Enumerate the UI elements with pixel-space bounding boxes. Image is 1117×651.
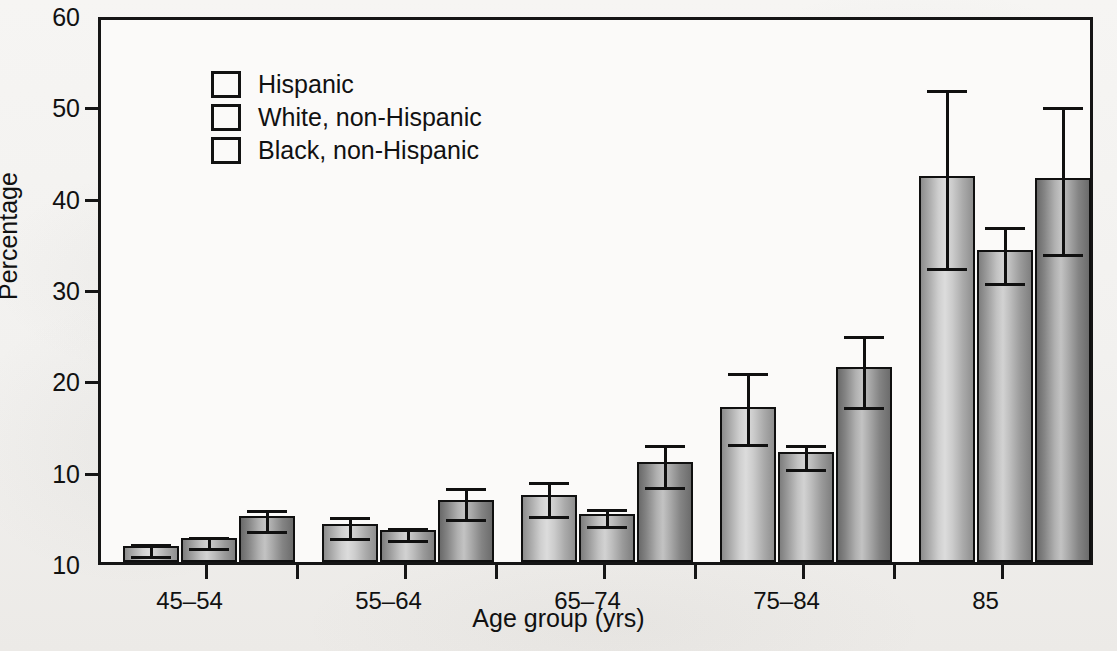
- y-tick-label: 50: [12, 94, 80, 123]
- legend-item: Black, non-Hispanic: [211, 134, 482, 166]
- error-bar-cap-upper: [529, 482, 569, 485]
- error-bar-stem: [606, 510, 609, 527]
- error-bar-cap-lower: [446, 519, 486, 522]
- legend: HispanicWhite, non-HispanicBlack, non-Hi…: [211, 68, 482, 167]
- error-bar-stem: [805, 447, 808, 471]
- y-tick-label: 20: [12, 368, 80, 397]
- error-bar-stem: [863, 338, 866, 408]
- x-tick-mark-center: [802, 565, 805, 579]
- x-tick-mark-center: [603, 565, 606, 579]
- x-tick-mark-center: [404, 565, 407, 579]
- error-bar-stem: [747, 374, 750, 445]
- plot-area: HispanicWhite, non-HispanicBlack, non-Hi…: [98, 17, 1093, 565]
- error-bar-cap-lower: [985, 283, 1025, 286]
- error-bar-stem: [1004, 228, 1007, 285]
- y-tick-label: 30: [12, 277, 80, 306]
- x-tick-mark: [495, 565, 498, 579]
- y-tick-mark: [85, 381, 98, 384]
- error-bar-cap-upper: [985, 227, 1025, 230]
- error-bar-cap-upper: [446, 488, 486, 491]
- error-bar-cap-lower: [587, 526, 627, 529]
- error-bar-cap-upper: [844, 336, 884, 339]
- y-tick-mark: [85, 107, 98, 110]
- error-bar-stem: [548, 484, 551, 518]
- x-axis-label: Age group (yrs): [0, 604, 1117, 633]
- chart-figure: Percentage 10102030405060 HispanicWhite,…: [0, 0, 1117, 651]
- y-tick-mark: [85, 290, 98, 293]
- legend-swatch: [211, 104, 241, 131]
- legend-swatch: [211, 137, 241, 164]
- legend-swatch: [211, 71, 241, 98]
- x-tick-mark: [694, 565, 697, 579]
- legend-label: Hispanic: [258, 70, 354, 99]
- x-tick-mark: [296, 565, 299, 579]
- error-bar-cap-upper: [330, 517, 370, 520]
- legend-label: White, non-Hispanic: [258, 103, 482, 132]
- legend-item: White, non-Hispanic: [211, 101, 482, 133]
- error-bar-cap-upper: [587, 509, 627, 512]
- error-bar-cap-lower: [131, 556, 171, 559]
- error-bar-cap-lower: [330, 538, 370, 541]
- y-tick-label: 10: [12, 551, 80, 580]
- y-tick-mark: [85, 199, 98, 202]
- y-tick-label: 40: [12, 185, 80, 214]
- x-tick-mark-center: [1001, 565, 1004, 579]
- error-bar-cap-upper: [786, 445, 826, 448]
- error-bar-cap-upper: [131, 544, 171, 547]
- y-tick-label: 60: [12, 3, 80, 32]
- error-bar-stem: [349, 519, 352, 540]
- error-bar-cap-lower: [247, 531, 287, 534]
- error-bar-cap-lower: [927, 268, 967, 271]
- error-bar-cap-lower: [189, 548, 229, 551]
- error-bar-cap-lower: [388, 540, 428, 543]
- legend-label: Black, non-Hispanic: [258, 136, 479, 165]
- error-bar-cap-upper: [247, 510, 287, 513]
- error-bar-stem: [664, 447, 667, 489]
- y-tick-label: 10: [12, 459, 80, 488]
- x-tick-mark: [893, 565, 896, 579]
- error-bar-cap-upper: [1043, 107, 1083, 110]
- error-bar-stem: [266, 511, 269, 532]
- error-bar-cap-upper: [728, 373, 768, 376]
- error-bar-cap-lower: [645, 487, 685, 490]
- error-bar-cap-lower: [1043, 254, 1083, 257]
- error-bar-stem: [465, 489, 468, 520]
- error-bar-cap-upper: [189, 537, 229, 540]
- error-bar-cap-lower: [728, 444, 768, 447]
- error-bar-cap-lower: [786, 469, 826, 472]
- error-bar-cap-lower: [529, 516, 569, 519]
- x-tick-mark-center: [205, 565, 208, 579]
- error-bar-cap-upper: [388, 528, 428, 531]
- error-bar-cap-upper: [645, 445, 685, 448]
- y-tick-mark: [85, 473, 98, 476]
- error-bar-cap-upper: [927, 90, 967, 93]
- error-bar-stem: [946, 91, 949, 269]
- legend-item: Hispanic: [211, 68, 482, 100]
- error-bar-stem: [1062, 109, 1065, 256]
- error-bar-cap-lower: [844, 407, 884, 410]
